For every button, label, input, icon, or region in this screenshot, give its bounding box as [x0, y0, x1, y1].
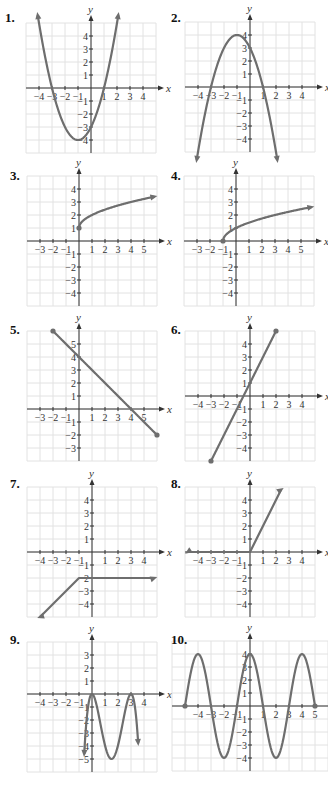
x-tick-label: 4 [300, 399, 305, 410]
y-tick-label: 2 [242, 521, 247, 532]
y-tick-label: −2 [236, 573, 247, 584]
x-tick-label: 4 [300, 555, 305, 566]
endpoint-dot [312, 703, 317, 708]
problem-number: 10. [171, 632, 187, 648]
x-tick-label: 4 [300, 90, 305, 101]
graph-panel-10: xy−4−3−2−112345−4−3−2−11234 [172, 621, 328, 771]
y-axis-arrow-icon [90, 479, 95, 485]
x-tick-label: −3 [48, 697, 59, 708]
y-tick-label: 2 [228, 210, 233, 221]
x-tick-label: 4 [300, 709, 305, 720]
curve-arrow-icon [35, 12, 41, 19]
y-tick-label: −3 [236, 430, 247, 441]
y-tick-label: −4 [222, 288, 233, 299]
x-tick-label: −4 [193, 709, 204, 720]
x-tick-label: −4 [193, 90, 204, 101]
y-tick-label: 2 [71, 210, 76, 221]
y-tick-label: 3 [71, 365, 76, 376]
curve-arrow-icon [150, 195, 157, 201]
x-axis-arrow-icon [159, 550, 165, 555]
y-tick-label: −1 [77, 96, 88, 107]
x-axis-label: x [323, 235, 328, 247]
y-tick-label: −1 [236, 95, 247, 106]
x-tick-label: −3 [206, 399, 217, 410]
x-tick-label: −2 [60, 91, 71, 102]
axes: xy−4−3−2−112345−4−3−2−11234 [172, 621, 328, 771]
x-tick-label: 4 [142, 697, 147, 708]
x-axis-label: x [324, 81, 328, 93]
y-tick-label: 3 [242, 508, 247, 519]
y-axis-label: y [88, 622, 94, 634]
function-curve [188, 490, 282, 552]
y-tick-label: 3 [242, 352, 247, 363]
y-axis-arrow-icon [89, 15, 94, 21]
graph-panel-1: xy−4−3−2−11234−4−3−2−11234 [26, 3, 171, 153]
y-tick-label: 2 [84, 663, 89, 674]
x-tick-label: 2 [274, 399, 279, 410]
y-tick-label: −4 [65, 288, 76, 299]
x-tick-label: 4 [142, 555, 147, 566]
graphs-canvas: xy−4−3−2−11234−4−3−2−11234xy−4−3−2−11234… [0, 0, 328, 788]
problem-number: 6. [171, 322, 181, 338]
x-tick-label: −2 [61, 697, 72, 708]
x-tick-label: 4 [129, 412, 134, 423]
y-tick-label: 1 [242, 534, 247, 545]
x-axis-label: x [166, 403, 172, 415]
y-tick-label: −4 [78, 599, 89, 610]
x-tick-label: 1 [90, 412, 95, 423]
x-tick-label: 1 [261, 555, 266, 566]
x-tick-label: −3 [35, 412, 46, 423]
y-tick-label: −2 [236, 417, 247, 428]
problem-number: 4. [171, 168, 181, 184]
y-tick-label: −4 [236, 134, 247, 145]
x-tick-label: 5 [313, 709, 318, 720]
y-tick-label: 5 [71, 339, 76, 350]
endpoint-dot [154, 432, 159, 437]
x-tick-label: −2 [205, 244, 216, 255]
problem-number: 8. [171, 476, 181, 492]
y-tick-label: 1 [242, 69, 247, 80]
y-tick-label: −1 [78, 560, 89, 571]
x-axis-label: x [166, 235, 172, 247]
endpoint-dot [273, 328, 278, 333]
problem-number: 9. [10, 632, 20, 648]
x-axis-arrow-icon [316, 239, 322, 244]
x-tick-label: −2 [219, 709, 230, 720]
x-axis-arrow-icon [158, 86, 164, 91]
y-tick-label: −3 [236, 121, 247, 132]
y-tick-label: 1 [84, 676, 89, 687]
y-axis-arrow-icon [90, 634, 95, 640]
x-tick-label: −3 [206, 555, 217, 566]
y-tick-label: −3 [77, 122, 88, 133]
y-tick-label: −1 [65, 249, 76, 260]
graph-panel-7: xy−4−3−2−11234−4−3−2−11234 [27, 467, 172, 619]
y-axis-label: y [87, 3, 93, 15]
y-tick-label: −2 [65, 262, 76, 273]
x-tick-label: 3 [129, 555, 134, 566]
y-tick-label: −1 [236, 714, 247, 725]
axes: xy−4−3−2−11234−4−3−2−11234 [185, 2, 328, 152]
x-axis-arrow-icon [317, 550, 323, 555]
y-tick-label: −2 [236, 108, 247, 119]
y-axis-arrow-icon [77, 168, 82, 174]
y-tick-label: 3 [84, 508, 89, 519]
y-tick-label: 4 [228, 184, 233, 195]
y-tick-label: 3 [84, 650, 89, 661]
x-tick-label: 3 [128, 91, 133, 102]
y-tick-label: 2 [242, 56, 247, 67]
y-tick-label: 1 [71, 391, 76, 402]
graph-panel-5: xy−3−2−112345−3−2−112345 [27, 311, 172, 461]
problem-number: 2. [171, 10, 181, 26]
endpoint-dot [208, 458, 213, 463]
y-axis-label: y [232, 156, 238, 168]
x-axis-arrow-icon [159, 239, 165, 244]
graph-panel-2: xy−4−3−2−11234−4−3−2−11234 [185, 2, 328, 163]
x-tick-label: −4 [35, 555, 46, 566]
y-tick-label: −3 [65, 443, 76, 454]
x-tick-label: −2 [48, 412, 59, 423]
y-tick-label: −1 [65, 417, 76, 428]
x-tick-label: 1 [103, 697, 108, 708]
axes: xy−4−3−2−11234−4−3−2−11234 [26, 3, 171, 153]
y-axis-label: y [246, 2, 252, 14]
x-tick-label: 2 [274, 90, 279, 101]
